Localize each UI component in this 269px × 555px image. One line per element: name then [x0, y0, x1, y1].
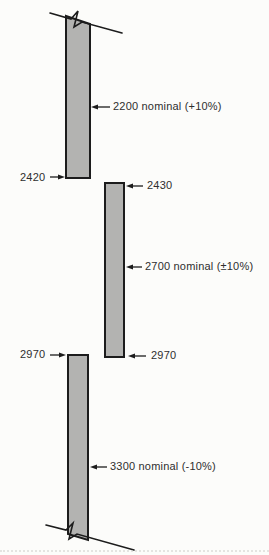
- arrow-head-icon: [90, 465, 97, 470]
- label-2420: 2420: [20, 171, 45, 184]
- label-2970-middle-end: 2970: [151, 349, 176, 362]
- arrow-head-icon: [128, 354, 135, 359]
- arrow-2970-right: [128, 354, 146, 359]
- arrow-head-icon: [58, 175, 65, 180]
- scan-artifact-line: [0, 550, 269, 552]
- arrow-head-icon: [91, 105, 98, 110]
- arrow-head-icon: [126, 184, 133, 189]
- arrow-2700-nominal: [126, 265, 142, 270]
- arrow-2420: [50, 175, 65, 180]
- arrow-head-icon: [126, 265, 133, 270]
- band-bar-bottom: [68, 355, 88, 540]
- arrow-3300-nominal: [90, 465, 107, 470]
- label-2700-nominal: 2700 nominal (±10%): [145, 260, 253, 273]
- arrow-head-icon: [59, 353, 66, 358]
- band-breakdown-diagram: 2200 nominal (+10%) 2420 2430 2700 nomin…: [0, 0, 269, 555]
- label-2430: 2430: [147, 179, 172, 192]
- arrow-2200-nominal: [91, 105, 110, 110]
- label-2200-nominal: 2200 nominal (+10%): [113, 100, 222, 113]
- arrow-2430: [126, 184, 143, 189]
- band-bar-middle: [105, 183, 124, 357]
- band-bar-top: [66, 16, 90, 178]
- arrow-2970-left: [50, 353, 66, 358]
- label-3300-nominal: 3300 nominal (-10%): [110, 460, 216, 473]
- label-2970-bottom-start: 2970: [20, 348, 45, 361]
- break-symbol-bottom-icon: [46, 523, 134, 550]
